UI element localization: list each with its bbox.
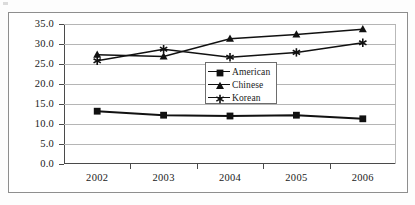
- legend-glyph: [215, 81, 225, 91]
- x-axis-label: 2003: [134, 172, 194, 184]
- y-axis-label: 25.0: [0, 59, 54, 69]
- y-axis-label: 35.0: [0, 19, 54, 29]
- chart-figure: 0.05.010.015.020.025.030.035.0 200220032…: [0, 0, 415, 205]
- y-tick: [59, 124, 64, 125]
- data-point-asterisk: [216, 94, 223, 102]
- y-tick: [59, 24, 64, 25]
- x-axis-label: 2004: [200, 172, 260, 184]
- gridline: [64, 144, 396, 145]
- y-axis-label: 10.0: [0, 119, 54, 129]
- x-tick: [130, 164, 131, 169]
- gridline: [64, 24, 396, 25]
- y-tick: [59, 104, 64, 105]
- y-tick: [59, 164, 64, 165]
- legend-glyph: [215, 68, 225, 78]
- y-tick: [59, 84, 64, 85]
- y-tick: [59, 44, 64, 45]
- legend-marker-filled-triangle-icon: [206, 78, 232, 91]
- scan-speck: [3, 2, 8, 5]
- gridline: [64, 124, 396, 125]
- legend-label: Chinese: [232, 80, 263, 90]
- legend-label: American: [232, 67, 270, 77]
- chart-legend: AmericanChineseKorean: [205, 62, 277, 104]
- y-tick: [59, 144, 64, 145]
- y-tick: [59, 64, 64, 65]
- x-axis-label: 2005: [266, 172, 326, 184]
- y-axis-label: 5.0: [0, 139, 54, 149]
- y-axis-label: 30.0: [0, 39, 54, 49]
- legend-marker-asterisk-icon: [206, 91, 232, 104]
- legend-glyph: [215, 94, 225, 104]
- gridline: [64, 44, 396, 45]
- x-tick: [197, 164, 198, 169]
- legend-item-korean: Korean: [206, 91, 276, 104]
- data-point-filled-triangle: [216, 81, 224, 88]
- x-tick: [263, 164, 264, 169]
- x-tick: [330, 164, 331, 169]
- y-axis-label: 20.0: [0, 79, 54, 89]
- data-point-filled-square: [217, 69, 224, 76]
- legend-item-chinese: Chinese: [206, 78, 276, 91]
- legend-item-american: American: [206, 65, 276, 78]
- gridline: [64, 104, 396, 105]
- x-axis-label: 2002: [67, 172, 127, 184]
- x-axis-label: 2006: [333, 172, 393, 184]
- plot-right-edge: [395, 24, 396, 164]
- legend-label: Korean: [232, 93, 261, 103]
- y-axis-label: 0.0: [0, 159, 54, 169]
- y-axis-label: 15.0: [0, 99, 54, 109]
- legend-marker-filled-square-icon: [206, 65, 232, 78]
